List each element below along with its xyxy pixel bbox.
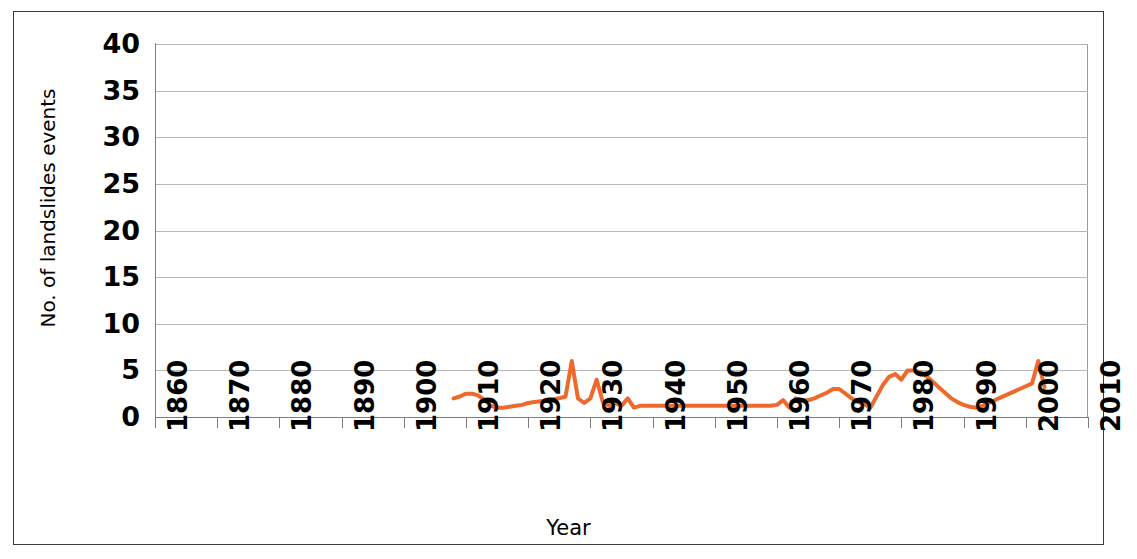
x-tick-mark-1910 [466,417,467,428]
x-tick-mark-1960 [777,417,778,428]
y-tick-label-5: 5 [78,356,140,383]
x-tick-label-1990: 1990 [974,332,1000,432]
x-tick-label-1910: 1910 [476,332,502,432]
y-axis-line [155,43,156,418]
x-tick-label-1890: 1890 [352,332,378,432]
y-tick-label-30: 30 [78,123,140,150]
x-tick-label-1960: 1960 [787,332,813,432]
y-tick-label-10: 10 [78,310,140,337]
x-tick-label-1980: 1980 [911,332,937,432]
x-axis-title: Year [0,516,1137,540]
x-tick-mark-1970 [839,417,840,428]
x-tick-mark-1950 [715,417,716,428]
x-tick-label-1970: 1970 [849,332,875,432]
x-tick-label-1880: 1880 [289,332,315,432]
y-tick-label-20: 20 [78,217,140,244]
x-tick-mark-1900 [404,417,405,428]
x-tick-mark-2010 [1088,417,1089,428]
x-tick-mark-1920 [528,417,529,428]
chart-figure: No. of landslides events 051015202530354… [0,0,1137,559]
y-tick-label-35: 35 [78,77,140,104]
x-tick-label-1950: 1950 [725,332,751,432]
y-axis-title: No. of landslides events [36,68,60,348]
x-tick-label-1940: 1940 [663,332,689,432]
y-axis-tick-labels: 0510152025303540 [78,0,140,559]
y-tick-label-0: 0 [78,403,140,430]
y-tick-label-25: 25 [78,170,140,197]
x-tick-label-2010: 2010 [1098,332,1124,432]
x-tick-label-2000: 2000 [1036,332,1062,432]
x-tick-mark-1890 [342,417,343,428]
x-tick-mark-1930 [590,417,591,428]
x-tick-mark-2000 [1026,417,1027,428]
x-tick-label-1870: 1870 [227,332,253,432]
x-tick-label-1900: 1900 [414,332,440,432]
y-tick-label-40: 40 [78,30,140,57]
y-tick-label-15: 15 [78,263,140,290]
x-tick-mark-1870 [217,417,218,428]
x-tick-label-1930: 1930 [600,332,626,432]
x-tick-label-1860: 1860 [165,332,191,432]
x-tick-mark-1860 [155,417,156,428]
x-tick-mark-1980 [901,417,902,428]
x-tick-mark-1990 [964,417,965,428]
x-tick-mark-1880 [279,417,280,428]
x-tick-mark-1940 [653,417,654,428]
x-tick-label-1920: 1920 [538,332,564,432]
